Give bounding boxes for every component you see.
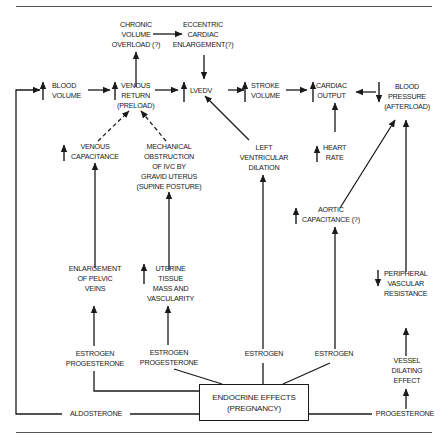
node-aldosterone: ALDOSTERONE [69, 409, 123, 419]
node-estrogen-progesterone-2: ESTROGEN PROGESTERONE [140, 348, 198, 368]
node-left-ventricular-dilation: LEFT VENTRICULAR DILATION [240, 143, 289, 173]
arrow-aortic-to-blood-pressure [340, 120, 395, 208]
node-blood-volume: BLOOD VOLUME [52, 81, 81, 101]
line-aldosterone-to-blood-volume [16, 90, 62, 414]
flow-diagram [0, 0, 448, 441]
node-blood-pressure: BLOOD PRESSURE (AFTERLOAD) [384, 82, 430, 112]
node-eccentric-cardiac-enlargement: ECCENTRIC CARDIAC ENLARGEMENT(?) [173, 20, 234, 50]
node-estrogen-1: ESTROGEN [245, 349, 284, 359]
endocrine-effects-box: ENDOCRINE EFFECTS (PREGNANCY) [199, 384, 309, 421]
node-lvedv: LVEDV [190, 86, 212, 96]
node-cardiac-output: CARDIAC OUTPUT [316, 81, 347, 101]
node-venous-capacitance: VENOUS CAPACITANCE [71, 142, 119, 162]
bottom-rule [16, 432, 432, 433]
dashed-arrow-venous-capacitance [98, 111, 129, 141]
node-chronic-volume-overload: CHRONIC VOLUME OVERLOAD (?) [112, 20, 160, 50]
node-stroke-volume: STROKE VOLUME [251, 81, 280, 101]
arrow-lv-dilation-to-lvedv [205, 96, 249, 140]
node-vessel-dilating-effect: VESSEL DILATING EFFECT [391, 356, 422, 386]
line-box-to-estrogen-prog-2 [174, 369, 222, 384]
node-uterine-tissue: UTERINE TISSUE MASS AND VASCULARITY [147, 264, 194, 304]
node-enlargement-pelvic-veins: ENLARGEMENT OF PELVIC VEINS [69, 264, 122, 294]
line-box-to-estrogen-2 [283, 363, 330, 384]
node-venous-return: VENOUS RETURN (PRELOAD) [117, 81, 154, 111]
node-heart-rate: HEART RATE [323, 143, 346, 163]
node-peripheral-vascular-resistance: PERIPHERAL VASCULAR RESISTANCE [384, 269, 428, 299]
dashed-arrow-mechanical-obstruction [141, 111, 166, 141]
node-estrogen-progesterone-1: ESTROGEN PROGESTERONE [66, 349, 124, 369]
node-estrogen-2: ESTROGEN [315, 349, 354, 359]
node-mechanical-obstruction: MECHANICAL OBSTRUCTION OF IVC BY GRAVID … [136, 142, 201, 192]
node-endocrine-effects: ENDOCRINE EFFECTS (PREGNANCY) [212, 392, 295, 414]
node-progesterone: PROGESTERONE [375, 409, 435, 419]
line-box-to-estrogen-prog-1 [94, 371, 199, 391]
node-aortic-capacitance: AORTIC CAPACITANCE (?) [302, 205, 360, 225]
top-rule [16, 6, 432, 7]
